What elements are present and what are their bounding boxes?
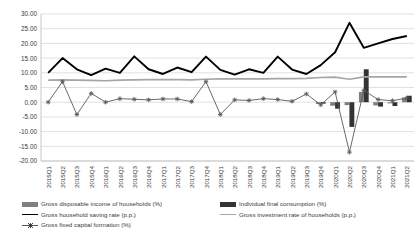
data-point-marker bbox=[304, 92, 309, 97]
line-series bbox=[48, 77, 407, 81]
y-axis-tick-label: -10.00 bbox=[19, 128, 38, 135]
y-axis-tick-label: 20.00 bbox=[21, 40, 37, 47]
data-point-marker bbox=[218, 112, 223, 117]
x-axis-tick-label: 2019Q3 bbox=[303, 165, 310, 188]
data-point-marker bbox=[275, 97, 280, 102]
x-axis-tick-label: 2015Q1 bbox=[45, 165, 52, 188]
x-axis-tick-label: 2018Q2 bbox=[231, 165, 238, 188]
x-axis-tick-label: 2018Q3 bbox=[246, 165, 253, 188]
y-axis-tick-label: -20.00 bbox=[19, 157, 38, 164]
data-point-marker bbox=[204, 79, 209, 84]
data-point-marker bbox=[361, 88, 366, 93]
x-axis-tick-label: 2020Q1 bbox=[332, 165, 339, 188]
x-axis-tick-label: 2016Q2 bbox=[117, 165, 124, 188]
data-point-marker bbox=[46, 100, 51, 105]
x-axis-tick-label: 2016Q1 bbox=[102, 165, 109, 188]
data-point-marker bbox=[261, 96, 266, 101]
x-axis-tick-label: 2018Q1 bbox=[217, 165, 224, 188]
legend-item-gross-investment-rate: Gross investment rate of households (p.p… bbox=[220, 210, 410, 221]
bar-bar bbox=[378, 102, 383, 106]
x-axis-tick-label: 2015Q4 bbox=[88, 165, 95, 188]
bar-bar bbox=[345, 102, 350, 105]
data-point-marker bbox=[232, 98, 237, 103]
data-point-marker bbox=[75, 112, 80, 117]
data-point-marker bbox=[376, 97, 381, 102]
line-marker-swatch-icon bbox=[22, 225, 38, 226]
bar-dark-swatch-icon bbox=[220, 202, 236, 207]
bar-gray-swatch-icon bbox=[22, 202, 38, 207]
legend-item-gross-fixed-capital-formation: Gross fixed capital formation (%) bbox=[22, 220, 212, 231]
bar-bar bbox=[373, 102, 378, 105]
x-axis-tick-label: 2021Q1 bbox=[389, 165, 396, 188]
data-point-marker bbox=[405, 96, 410, 101]
data-point-marker bbox=[132, 97, 137, 102]
data-point-marker bbox=[290, 99, 295, 104]
x-axis-tick-label: 2017Q4 bbox=[203, 165, 210, 188]
line-series bbox=[48, 23, 407, 75]
legend-item-label: Individual final consumption (%) bbox=[239, 199, 326, 210]
x-axis-tick-label: 2015Q2 bbox=[59, 165, 66, 188]
x-axis-tick-label: 2015Q3 bbox=[73, 165, 80, 188]
line-gray-swatch-icon bbox=[220, 214, 236, 215]
data-point-marker bbox=[89, 91, 94, 96]
legend-item-label: Gross fixed capital formation (%) bbox=[41, 220, 131, 231]
bar-bar bbox=[349, 102, 354, 127]
x-axis-tick-label: 2020Q2 bbox=[346, 165, 353, 188]
y-axis-tick-label: 15.00 bbox=[21, 55, 37, 62]
chart-container: 30.0025.0020.0015.0010.005.000.00-5.00-1… bbox=[0, 0, 418, 250]
bar-bar bbox=[330, 102, 335, 106]
x-axis-tick-label: 2019Q2 bbox=[289, 165, 296, 188]
data-point-marker bbox=[390, 98, 395, 103]
x-axis-tick-label: 2016Q4 bbox=[145, 165, 152, 188]
y-axis-tick-label: 25.00 bbox=[21, 25, 37, 32]
legend-item-label: Gross investment rate of households (p.p… bbox=[239, 210, 356, 221]
data-point-marker bbox=[247, 98, 252, 103]
data-point-marker bbox=[60, 79, 65, 84]
y-axis-tick-label: -15.00 bbox=[19, 143, 38, 150]
legend-item-gross-disposable-income: Gross disposable income of households (%… bbox=[22, 199, 212, 210]
legend-column-right: Individual final consumption (%) Gross i… bbox=[220, 199, 410, 220]
bar-bar bbox=[364, 69, 369, 102]
y-axis-tick-label: 0.00 bbox=[25, 99, 38, 106]
x-axis-tick-label: 2017Q2 bbox=[174, 165, 181, 188]
x-axis-tick-label: 2017Q3 bbox=[188, 165, 195, 188]
data-point-marker bbox=[161, 97, 166, 102]
legend-column-left: Gross disposable income of households (%… bbox=[22, 199, 212, 231]
line-black-swatch-icon bbox=[22, 214, 38, 215]
data-point-marker bbox=[347, 150, 352, 155]
x-axis-tick-label: 2020Q3 bbox=[360, 165, 367, 188]
data-point-marker bbox=[189, 99, 194, 104]
data-point-marker bbox=[175, 97, 180, 102]
y-axis-tick-label: 10.00 bbox=[21, 69, 37, 76]
bar-bar bbox=[388, 102, 393, 103]
y-axis-tick-label: 30.00 bbox=[21, 10, 37, 17]
x-axis-tick-label: 2018Q4 bbox=[260, 165, 267, 188]
x-axis-tick-label: 2017Q1 bbox=[160, 165, 167, 188]
x-axis-tick-label: 2019Q1 bbox=[274, 165, 281, 188]
x-axis-tick-label: 2016Q3 bbox=[131, 165, 138, 188]
y-axis-tick-label: 5.00 bbox=[25, 84, 38, 91]
legend-item-label: Gross household saving rate (p.p.) bbox=[41, 210, 136, 221]
data-point-marker bbox=[103, 100, 108, 105]
x-axis-tick-label: 2020Q4 bbox=[375, 165, 382, 188]
x-axis-tick-label: 2019Q4 bbox=[317, 165, 324, 188]
y-axis-tick-label: -5.00 bbox=[22, 113, 37, 120]
data-point-marker bbox=[118, 96, 123, 101]
legend-item-gross-household-saving-rate: Gross household saving rate (p.p.) bbox=[22, 210, 212, 221]
data-point-marker bbox=[318, 103, 323, 108]
data-point-marker bbox=[333, 90, 338, 95]
legend-item-individual-final-consumption: Individual final consumption (%) bbox=[220, 199, 410, 210]
bar-bar bbox=[392, 102, 397, 106]
legend-item-label: Gross disposable income of households (%… bbox=[41, 199, 162, 210]
x-axis-tick-label: 2021Q2 bbox=[403, 165, 410, 188]
data-point-marker bbox=[146, 98, 151, 103]
